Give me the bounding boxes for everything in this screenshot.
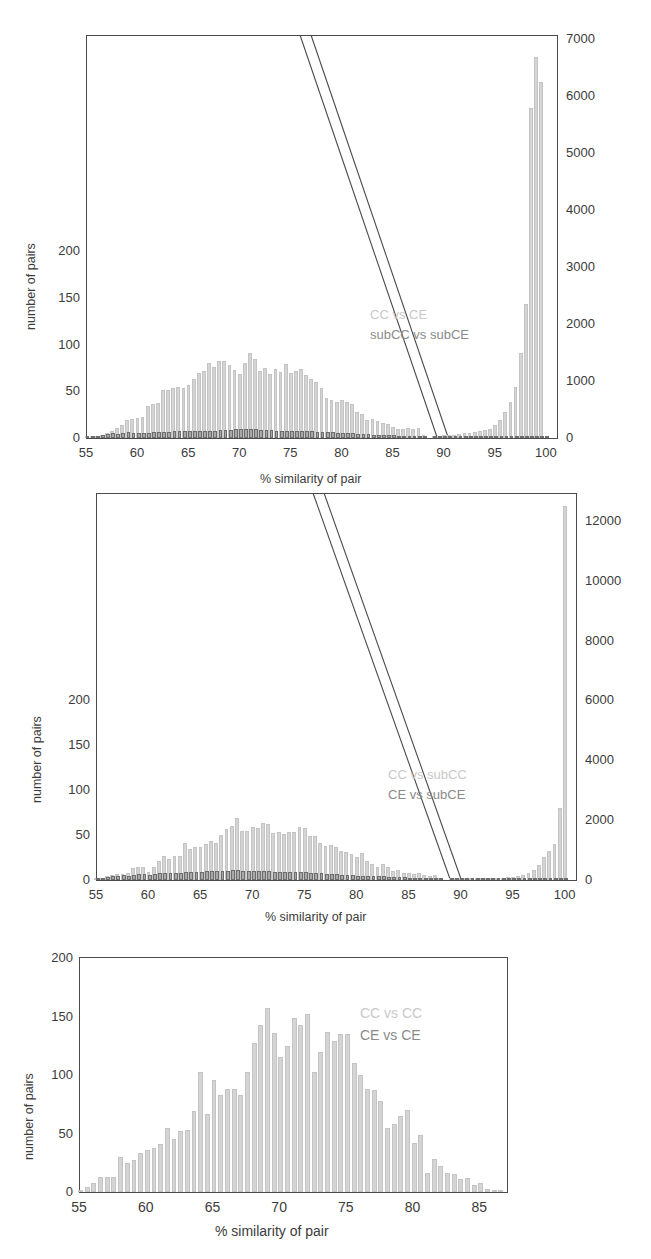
bar [460, 878, 464, 880]
bar [538, 878, 542, 880]
bar [412, 1143, 417, 1192]
bar [392, 1124, 397, 1192]
bar [174, 873, 178, 880]
x-tick: 60 [130, 445, 144, 460]
bar [208, 431, 212, 438]
bar [471, 878, 475, 880]
bar [542, 857, 546, 880]
x-tick: 55 [79, 445, 93, 460]
x-tick: 80 [334, 445, 348, 460]
bar [285, 1046, 290, 1192]
bar [318, 1052, 323, 1192]
bar [387, 877, 391, 880]
x-tick: 65 [181, 445, 195, 460]
bar [372, 435, 376, 438]
x-tick: 70 [271, 1199, 287, 1215]
bar [528, 878, 532, 880]
y-tick-left: 100 [52, 782, 90, 797]
bar [448, 436, 452, 438]
bar [185, 1130, 190, 1192]
bar [205, 871, 209, 880]
bar [299, 369, 303, 438]
bar [378, 1101, 383, 1192]
bar [549, 878, 553, 880]
bar [445, 1173, 450, 1192]
bar [239, 429, 243, 438]
bar [492, 1190, 497, 1192]
bar [338, 1034, 343, 1192]
bar [116, 876, 120, 880]
bar [238, 1095, 243, 1192]
bar [212, 367, 216, 438]
x-tick: 90 [436, 445, 450, 460]
bar [118, 1157, 123, 1192]
bar [559, 878, 563, 880]
bar [167, 432, 171, 438]
bar [321, 432, 325, 438]
bar [145, 1150, 150, 1192]
bar [408, 878, 412, 880]
bar [432, 1159, 437, 1192]
bar [314, 382, 318, 438]
bar [351, 433, 355, 438]
bar [408, 436, 412, 438]
plot-area-bottom [79, 957, 508, 1193]
bar [465, 1178, 470, 1192]
bar [245, 1072, 250, 1193]
bar [122, 875, 126, 880]
x-tick: 85 [401, 887, 415, 902]
x-tick: 75 [297, 887, 311, 902]
bar [331, 432, 335, 438]
y-tick-left: 200 [52, 692, 90, 707]
bar [258, 1025, 263, 1192]
bar [178, 1131, 183, 1192]
bar [252, 1043, 257, 1192]
bar [362, 434, 366, 438]
y-tick-left: 0 [42, 430, 80, 445]
bar [272, 1033, 277, 1192]
y-axis-title-bottom: number of pairs [22, 1073, 36, 1160]
legend-item-1-bottom: CC vs CC [360, 1003, 422, 1025]
bar [205, 1114, 210, 1192]
bar [366, 876, 370, 880]
bar [165, 1128, 170, 1192]
y-tick-left: 0 [35, 1184, 73, 1199]
bar [265, 1008, 270, 1192]
y-tick-right: 6000 [585, 692, 614, 707]
y-tick-left: 150 [35, 1008, 73, 1023]
bar [425, 1173, 430, 1192]
bar [478, 1183, 483, 1192]
y-tick-right: 0 [566, 430, 573, 445]
y-tick-left: 150 [42, 289, 80, 304]
y-tick-right: 4000 [585, 752, 614, 767]
bar [152, 432, 156, 438]
bar [454, 436, 458, 438]
legend-item-2-top: subCC vs subCE [370, 325, 469, 345]
bar [382, 435, 386, 438]
bar [183, 431, 187, 438]
bar [418, 878, 422, 880]
bar [198, 1072, 203, 1193]
bar [320, 873, 324, 880]
bar [525, 436, 529, 438]
bar [278, 872, 282, 880]
bar [137, 874, 141, 880]
bar [514, 387, 518, 438]
bar [489, 436, 493, 438]
bar [202, 371, 206, 438]
bar [210, 871, 214, 880]
bar [224, 430, 228, 438]
y-tick-right: 10000 [585, 572, 621, 587]
y-tick-left: 50 [42, 383, 80, 398]
bar [121, 433, 125, 438]
bar [372, 1090, 377, 1192]
x-tick: 60 [138, 1199, 154, 1215]
bar [502, 878, 506, 880]
chart-panel-top: number of pairs 050100150200 01000200030… [0, 0, 651, 470]
bar [221, 871, 225, 880]
bar [184, 872, 188, 880]
bar [503, 412, 507, 438]
bar [485, 1189, 490, 1193]
bar [147, 433, 151, 438]
bar [392, 435, 396, 438]
